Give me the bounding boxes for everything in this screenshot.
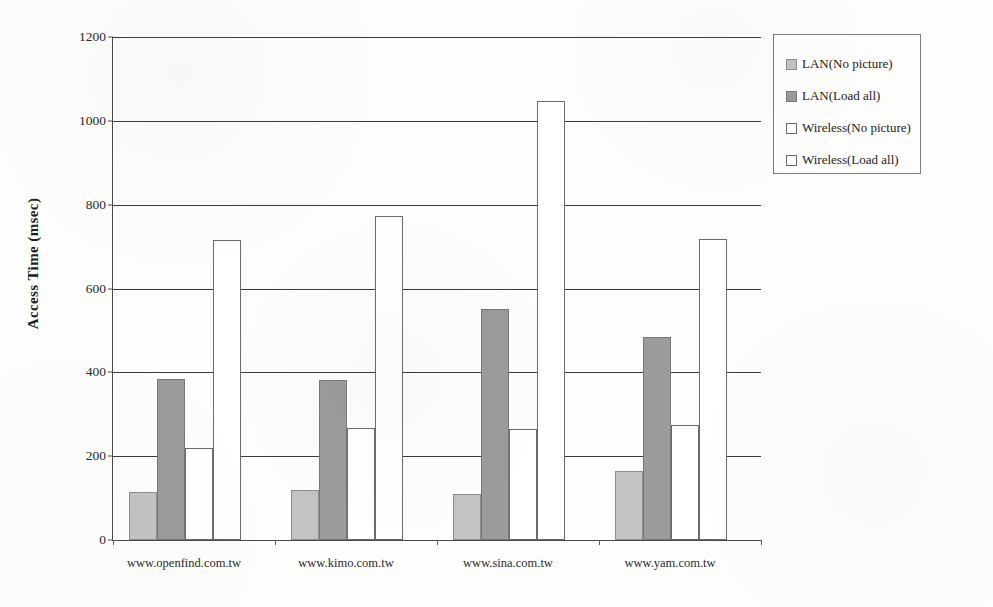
legend-label: Wireless(No picture) xyxy=(802,120,911,136)
y-axis-title: Access Time (msec) xyxy=(25,149,42,379)
x-axis-category-label: www.sina.com.tw xyxy=(463,556,553,571)
x-axis-tick xyxy=(437,540,438,545)
bar xyxy=(185,448,213,540)
legend-item: Wireless(No picture) xyxy=(786,113,920,143)
legend-swatch-icon xyxy=(786,91,797,102)
bar xyxy=(157,379,185,540)
legend-swatch-icon xyxy=(786,123,797,134)
legend-item: LAN(Load all) xyxy=(786,81,920,111)
y-tick-mark-600 xyxy=(108,288,113,289)
legend-swatch-icon xyxy=(786,59,797,70)
bar xyxy=(509,429,537,540)
x-axis-tick xyxy=(599,540,600,545)
bar xyxy=(319,380,347,540)
bar-chart-figure: Access Time (msec) 020040060080010001200… xyxy=(0,0,993,607)
bar xyxy=(643,337,671,540)
x-axis-category-label: www.kimo.com.tw xyxy=(298,556,393,571)
gridline-800 xyxy=(113,205,761,206)
legend-label: LAN(No picture) xyxy=(802,56,893,72)
y-tick-mark-800 xyxy=(108,204,113,205)
bar xyxy=(453,494,481,540)
bar xyxy=(375,216,403,540)
gridline-600 xyxy=(113,289,761,290)
legend-item: Wireless(Load all) xyxy=(786,145,920,175)
x-axis-category-label: www.openfind.com.tw xyxy=(127,556,241,571)
bar xyxy=(537,101,565,540)
legend-item: LAN(No picture) xyxy=(786,49,920,79)
bar xyxy=(615,471,643,540)
y-tick-mark-400 xyxy=(108,372,113,373)
bar xyxy=(347,428,375,540)
bar xyxy=(213,240,241,540)
x-axis-category-label: www.yam.com.tw xyxy=(624,556,715,571)
plot-area: 020040060080010001200 xyxy=(112,37,761,541)
x-axis-tick xyxy=(113,540,114,545)
x-axis-tick xyxy=(761,540,762,545)
gridline-1200 xyxy=(113,37,761,38)
legend-label: Wireless(Load all) xyxy=(802,152,899,168)
legend-label: LAN(Load all) xyxy=(802,88,880,104)
bar xyxy=(291,490,319,540)
x-axis-tick xyxy=(275,540,276,545)
gridline-1000 xyxy=(113,121,761,122)
bar xyxy=(671,425,699,540)
y-tick-mark-1200 xyxy=(108,37,113,38)
y-tick-mark-200 xyxy=(108,456,113,457)
chart-legend: LAN(No picture)LAN(Load all)Wireless(No … xyxy=(773,34,921,174)
y-tick-mark-1000 xyxy=(108,120,113,121)
bar xyxy=(129,492,157,540)
legend-swatch-icon xyxy=(786,155,797,166)
bar xyxy=(481,309,509,540)
bar xyxy=(699,239,727,540)
